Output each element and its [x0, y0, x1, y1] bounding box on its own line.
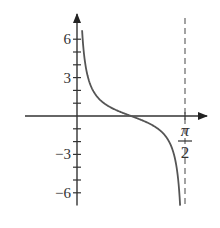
x-tick-label-pi-over-2: π2 — [178, 121, 192, 162]
svg-text:2: 2 — [181, 143, 190, 162]
y-tick-label: −3 — [55, 146, 71, 162]
cot-curve — [82, 30, 180, 205]
y-tick-label: 6 — [64, 31, 72, 47]
chart: 63−3−6 π2 — [0, 0, 220, 228]
y-tick-label: −6 — [55, 185, 71, 201]
svg-text:π: π — [181, 121, 190, 140]
y-tick-label: 3 — [64, 70, 72, 86]
